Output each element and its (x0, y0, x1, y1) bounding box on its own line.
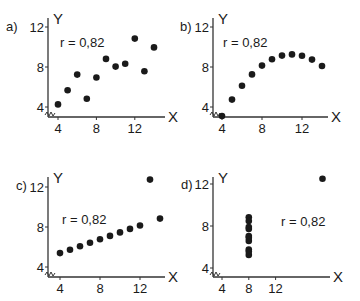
x-axis-label: X (331, 108, 341, 125)
x-tick-label: 12 (268, 281, 282, 296)
axis-break-icon (210, 112, 220, 116)
data-point (219, 113, 226, 120)
x-tick-label: 8 (93, 121, 100, 136)
data-point (77, 243, 84, 250)
x-tick-label: 4 (218, 281, 225, 296)
chart-canvas: 48124812XYa)r = 0,8248124812XYb)r = 0,82… (0, 0, 360, 301)
data-point (279, 52, 286, 59)
axis-break-icon (45, 112, 55, 116)
x-axis-label: X (333, 268, 343, 285)
data-point (299, 52, 306, 59)
data-point (151, 44, 158, 51)
data-point (239, 82, 246, 89)
data-point (249, 71, 256, 78)
anscombe-quartet-figure: 48124812XYa)r = 0,8248124812XYb)r = 0,82… (0, 0, 360, 301)
y-tick-label: 8 (37, 60, 44, 75)
axis-break-icon (45, 272, 55, 276)
scatter-panel-a: 48124812XYa)r = 0,82 (6, 10, 178, 136)
x-axis-label: X (168, 268, 178, 285)
y-axis-label: Y (53, 10, 63, 27)
correlation-annotation: r = 0,82 (223, 35, 267, 50)
data-point (57, 250, 64, 257)
data-point (122, 60, 129, 67)
data-point (117, 229, 124, 236)
data-point (107, 233, 114, 240)
x-axis-label: X (168, 108, 178, 125)
scatter-panel-d: 48124812XYd)r = 0,82 (181, 169, 343, 296)
data-point (246, 234, 253, 241)
data-point (157, 215, 164, 222)
data-point (84, 96, 91, 103)
y-tick-label: 4 (37, 100, 44, 115)
data-point (319, 63, 326, 70)
correlation-annotation: r = 0,82 (281, 214, 325, 229)
y-tick-label: 8 (202, 219, 209, 234)
data-point (64, 87, 71, 94)
data-point (259, 62, 266, 69)
y-tick-label: 8 (37, 220, 44, 235)
data-point (289, 51, 296, 58)
y-tick-label: 4 (202, 100, 209, 115)
scatter-panel-b: 48124812XYb)r = 0,82 (180, 10, 341, 136)
y-tick-label: 8 (202, 60, 209, 75)
y-tick-label: 12 (30, 20, 44, 35)
scatter-panel-c: 48124812XYc)r = 0,82 (16, 169, 178, 296)
x-tick-label: 12 (133, 281, 147, 296)
y-axis-label: Y (53, 169, 63, 186)
y-tick-label: 12 (195, 177, 209, 192)
axis-break-icon (210, 272, 220, 276)
data-point (74, 71, 81, 78)
x-tick-label: 4 (56, 281, 63, 296)
x-tick-label: 12 (295, 121, 309, 136)
correlation-annotation: r = 0,82 (60, 35, 104, 50)
data-point (112, 63, 119, 70)
data-point (67, 246, 74, 253)
panel-label: c) (16, 178, 27, 193)
data-point (132, 35, 139, 42)
y-tick-label: 4 (37, 260, 44, 275)
panel-label: a) (6, 19, 18, 34)
y-tick-label: 12 (195, 20, 209, 35)
data-point (246, 224, 253, 231)
x-tick-label: 8 (258, 121, 265, 136)
data-point (127, 226, 134, 233)
x-tick-label: 4 (218, 121, 225, 136)
data-point (137, 222, 144, 229)
data-point (55, 101, 62, 108)
data-point (141, 68, 148, 75)
data-point (93, 74, 100, 81)
x-tick-label: 4 (54, 121, 61, 136)
y-axis-label: Y (218, 10, 228, 27)
data-point (319, 175, 326, 182)
data-point (246, 248, 253, 255)
data-point (87, 240, 94, 247)
data-point (309, 56, 316, 63)
y-axis-label: Y (218, 169, 228, 186)
y-tick-label: 4 (202, 261, 209, 276)
x-tick-label: 8 (96, 281, 103, 296)
panel-label: d) (181, 177, 193, 192)
correlation-annotation: r = 0,82 (62, 212, 106, 227)
x-tick-label: 8 (245, 281, 252, 296)
data-point (147, 176, 154, 183)
data-point (103, 56, 110, 63)
x-tick-label: 12 (128, 121, 142, 136)
data-point (269, 56, 276, 63)
data-point (229, 96, 236, 103)
data-point (97, 236, 104, 243)
panel-label: b) (180, 19, 192, 34)
y-tick-label: 12 (30, 180, 44, 195)
data-point (246, 218, 253, 225)
